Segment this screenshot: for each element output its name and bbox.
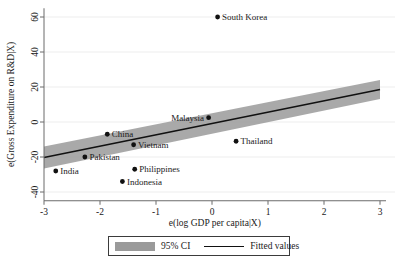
point-label: Malaysia	[171, 113, 204, 123]
data-point	[131, 142, 136, 147]
point-label: Philippines	[139, 164, 180, 174]
chart-legend: 95% CI Fitted values	[108, 236, 290, 256]
ci-swatch	[115, 242, 155, 251]
x-tick-label-1: 1	[266, 207, 271, 217]
data-point	[132, 167, 137, 172]
fitted-line	[44, 89, 380, 157]
data-point	[53, 169, 58, 174]
point-label: Pakistan	[89, 152, 120, 162]
scatter-plot: -40-200204060-3-2-10123 South KoreaMalay…	[0, 0, 398, 262]
y-tick-label-20: 20	[30, 82, 40, 92]
point-label: South Korea	[222, 12, 267, 22]
point-label: India	[60, 166, 78, 176]
x-tick-label-2: 2	[322, 207, 327, 217]
y-tick-label-40: 40	[30, 47, 40, 57]
point-labels-group: South KoreaMalaysiaThailandChinaVietnamP…	[60, 12, 273, 187]
data-point	[82, 155, 87, 160]
chart-canvas: -40-200204060-3-2-10123 South KoreaMalay…	[0, 0, 398, 262]
y-tick-label--20: -20	[30, 150, 40, 163]
x-tick-label-0: 0	[210, 207, 215, 217]
x-tick-label--1: -1	[152, 207, 160, 217]
y-tick-label-0: 0	[30, 119, 40, 124]
data-point	[234, 139, 239, 144]
fitted-line-swatch	[204, 246, 244, 247]
data-point	[215, 15, 220, 20]
data-point	[105, 132, 110, 137]
point-label: Thailand	[241, 136, 273, 146]
x-axis-title: e(log GDP per capita|X)	[169, 218, 261, 229]
point-label: Indonesia	[127, 177, 162, 187]
point-label: Vietnam	[138, 140, 168, 150]
y-tick-label-60: 60	[30, 12, 40, 22]
x-tick-label--3: -3	[40, 207, 48, 217]
data-point	[206, 115, 211, 120]
fitted-values-legend-label: Fitted values	[250, 241, 299, 251]
x-tick-label--2: -2	[96, 207, 104, 217]
tick-marks-group	[40, 17, 380, 205]
data-point	[120, 179, 125, 184]
ci-legend-label: 95% CI	[161, 241, 190, 251]
x-tick-label-3: 3	[378, 207, 383, 217]
y-tick-label--40: -40	[30, 185, 40, 198]
fitted-values-line	[44, 89, 380, 157]
point-label: China	[112, 129, 134, 139]
y-axis-title: e(Gross Expenditure on R&D|X)	[6, 42, 17, 167]
